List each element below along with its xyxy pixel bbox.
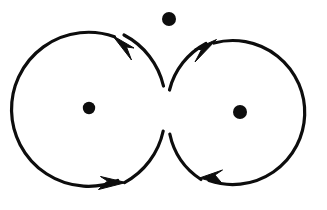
right-center-dot [233,105,247,119]
figure-canvas [0,0,327,210]
two-loop-diagram [0,0,327,210]
right-loop-circle [209,41,305,185]
left-loop-circle [12,32,118,186]
left-loop-arc-segment [125,131,164,183]
right-loop-arc-left-lower [170,134,201,180]
left-loop-bottom-arrow-icon [99,177,127,190]
left-loop-arc-upper [124,35,164,86]
top-free-dot [162,12,176,26]
left-center-dot [83,102,95,114]
